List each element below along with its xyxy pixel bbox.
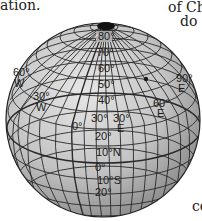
lat-label-10n: 10°N: [96, 146, 121, 158]
north-pole-marker: [97, 22, 115, 30]
lat-label-50: 50°: [98, 78, 115, 90]
location-dot-icon: [144, 77, 148, 81]
lat-label-40: 40°: [98, 94, 115, 106]
lat-label-20: 20°: [95, 130, 112, 142]
lat-label-20s: 20°: [95, 186, 112, 198]
lon-label-90e-dir: E: [178, 82, 185, 94]
lon-label-30e-dir: E: [117, 122, 124, 134]
lat-label-70: 70°: [97, 46, 114, 58]
lon-label-0-deg: 0°: [72, 120, 83, 132]
lat-label-10s: 10°S: [97, 174, 121, 186]
lon-label-30w-dir: W: [36, 101, 47, 113]
lat-label-80: 80°: [98, 30, 115, 42]
lon-label-60e-dir: E: [157, 107, 164, 119]
lat-label-30: 30°: [91, 112, 108, 124]
lon-label-60w-dir: W: [14, 77, 25, 89]
globe-diagram: 80° 70° 60° 50° 40° 30° 20° 10°N 0° 10°S…: [0, 0, 202, 221]
lat-label-0: 0°: [95, 161, 106, 173]
lat-label-60: 60°: [98, 62, 115, 74]
